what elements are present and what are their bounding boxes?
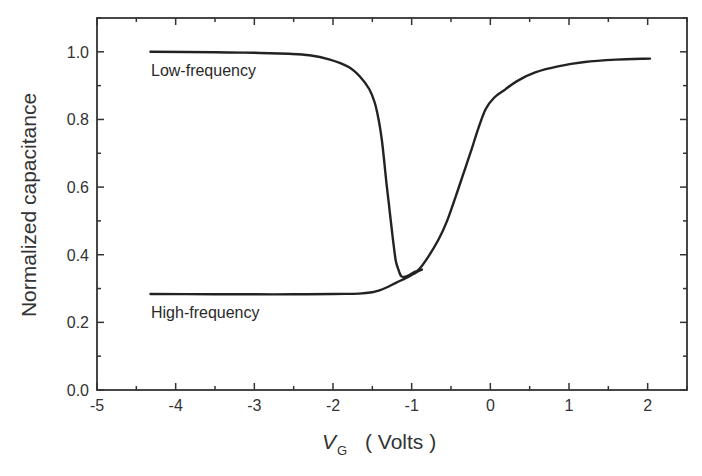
annotation-high-frequency: High-frequency (151, 304, 260, 321)
x-tick-label: 2 (643, 397, 652, 414)
x-axis-title: V G ( Volts ) (322, 430, 436, 458)
x-tick-label: -1 (405, 397, 419, 414)
y-tick-label: 0.0 (67, 382, 89, 399)
x-axis-title-subscript: G (337, 443, 347, 458)
y-tick-label: 0.6 (67, 179, 89, 196)
y-tick-label: 0.2 (67, 314, 89, 331)
x-tick-label: 0 (486, 397, 495, 414)
x-tick-label: -2 (326, 397, 340, 414)
y-axis-tick-labels: 0.00.20.40.60.81.0 (67, 44, 89, 399)
x-axis-title-symbol: V (322, 430, 338, 453)
series-low-frequency (151, 52, 651, 277)
y-tick-label: 1.0 (67, 44, 89, 61)
y-tick-label: 0.4 (67, 247, 89, 264)
x-tick-label: -4 (169, 397, 183, 414)
x-axis-title-unit: ( Volts ) (365, 430, 436, 453)
cv-chart: 0.00.20.40.60.81.0 -5-4-3-2-1012 Low-fre… (0, 0, 702, 476)
x-axis-tick-labels: -5-4-3-2-1012 (90, 397, 652, 414)
x-tick-label: -3 (247, 397, 261, 414)
series-high-frequency (151, 270, 422, 295)
annotation-low-frequency: Low-frequency (151, 62, 256, 79)
y-axis-title: Normalized capacitance (17, 93, 40, 317)
data-series (151, 52, 651, 295)
x-tick-label: 1 (565, 397, 574, 414)
y-tick-label: 0.8 (67, 111, 89, 128)
x-tick-label: -5 (90, 397, 104, 414)
